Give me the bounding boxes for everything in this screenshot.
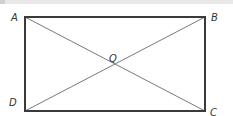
vertex-label-d: D [9, 97, 17, 108]
intersection-label-q: Q [109, 53, 117, 64]
vertex-label-a: A [10, 12, 18, 23]
rectangle-diagram: A B C D Q [0, 0, 233, 116]
vertex-label-b: B [211, 12, 218, 23]
vertex-label-c: C [210, 107, 217, 116]
